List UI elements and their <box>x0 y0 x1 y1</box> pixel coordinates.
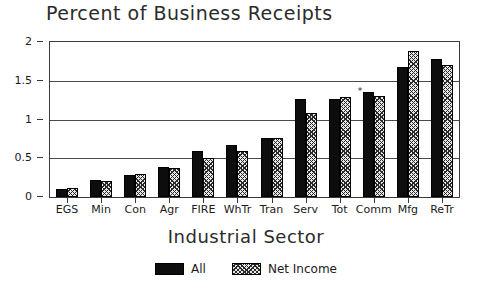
chart-legend: All Net Income <box>0 262 492 276</box>
bar-tot-all <box>329 99 340 197</box>
bar-tran-all <box>261 138 272 197</box>
bar-con-all <box>124 175 135 197</box>
x-tick-label-min: Min <box>91 203 111 216</box>
chart-title: Percent of Business Receipts <box>46 2 446 24</box>
bar-agr-net-income <box>169 168 180 197</box>
legend-label-all: All <box>191 262 206 276</box>
bar-egs-all <box>56 189 67 197</box>
bar-group <box>124 42 146 197</box>
bar-group <box>56 42 78 197</box>
x-tick-label-agr: Agr <box>160 203 179 216</box>
bar-group <box>431 42 453 197</box>
legend-swatch-all <box>155 263 184 275</box>
bar-con-net-income <box>135 174 146 197</box>
x-tick-label-retr: ReTr <box>430 203 454 216</box>
bar-egs-net-income <box>67 188 78 197</box>
bar-group <box>158 42 180 197</box>
legend-swatch-net-income <box>232 263 261 275</box>
x-tick-label-con: Con <box>125 203 146 216</box>
bar-whtr-all <box>226 145 237 197</box>
bar-retr-net-income <box>442 65 453 197</box>
bar-group <box>261 42 283 197</box>
bars-layer <box>50 42 459 197</box>
bar-mfg-net-income <box>408 51 419 197</box>
legend-item-net-income: Net Income <box>232 262 337 276</box>
bar-tot-net-income <box>340 97 351 197</box>
bar-retr-all <box>431 59 442 197</box>
y-axis: 00.511.52 <box>0 41 43 198</box>
y-tick-label: 2 <box>25 35 32 48</box>
y-tick-mark <box>37 119 43 120</box>
y-tick-label: 1 <box>25 112 32 125</box>
x-tick-label-fire: FIRE <box>191 203 215 216</box>
bar-comm-net-income <box>374 96 385 197</box>
y-tick-mark <box>37 196 43 197</box>
bar-mfg-all <box>397 67 408 197</box>
bar-group <box>329 42 351 197</box>
y-tick-label: 0.5 <box>15 151 33 164</box>
y-tick-label: 0 <box>25 190 32 203</box>
bar-comm-all <box>363 92 374 197</box>
x-tick-label-tot: Tot <box>332 203 348 216</box>
y-tick-mark <box>37 41 43 42</box>
x-tick-label-tran: Tran <box>260 203 283 216</box>
bar-group <box>226 42 248 197</box>
x-tick-label-whtr: WhTr <box>224 203 251 216</box>
y-tick-label: 1.5 <box>15 73 33 86</box>
bar-min-all <box>90 180 101 197</box>
y-tick-mark <box>37 157 43 158</box>
x-tick-label-serv: Serv <box>293 203 318 216</box>
bar-group <box>397 42 419 197</box>
bar-whtr-net-income <box>237 151 248 198</box>
legend-label-net-income: Net Income <box>268 262 337 276</box>
x-axis-title: Industrial Sector <box>0 226 492 247</box>
bar-tran-net-income <box>272 138 283 197</box>
bar-group <box>192 42 214 197</box>
x-tick-label-comm: Comm <box>356 203 392 216</box>
bar-chart: Percent of Business Receipts 00.511.52 I… <box>0 0 492 297</box>
bar-min-net-income <box>101 181 112 197</box>
annotation-marker: * <box>358 86 363 96</box>
bar-group <box>90 42 112 197</box>
bar-group <box>295 42 317 197</box>
bar-serv-net-income <box>306 113 317 197</box>
bar-serv-all <box>295 99 306 197</box>
y-tick-mark <box>37 80 43 81</box>
x-tick-label-egs: EGS <box>56 203 78 216</box>
bar-group <box>363 42 385 197</box>
bar-fire-net-income <box>203 158 214 197</box>
legend-item-all: All <box>155 262 206 276</box>
bar-fire-all <box>192 151 203 197</box>
bar-agr-all <box>158 167 169 197</box>
x-tick-label-mfg: Mfg <box>398 203 418 216</box>
